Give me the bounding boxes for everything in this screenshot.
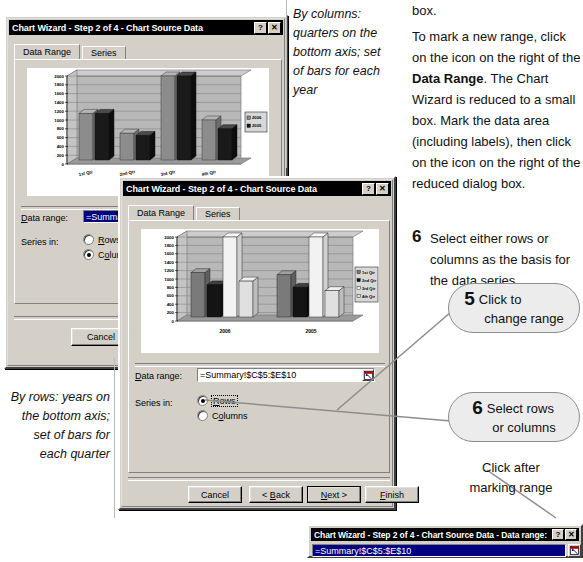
close-button[interactable]: ✕ (268, 22, 281, 34)
radio-columns-front[interactable]: Columns (197, 410, 248, 421)
callout-5-number: 5 (464, 288, 475, 309)
range-select-icon[interactable] (362, 369, 374, 381)
data-range-emphasis: Data Range (412, 71, 484, 86)
series-in-label-front: Series in: (135, 398, 173, 408)
tabpane-front: 0 200 400 600 800 1000 1200 1400 1600 18… (128, 220, 390, 473)
mini-range-input[interactable]: =Summary!$C$5:$E$10 (312, 544, 566, 557)
data-range-label-front: Data range: (135, 371, 182, 381)
svg-text:200: 200 (57, 153, 65, 158)
radio-indicator (83, 249, 94, 260)
svg-text:1800: 1800 (164, 243, 174, 248)
tab-label: Data Range (137, 208, 185, 218)
data-range-input-front[interactable]: =Summary!$C$5:$E$10 (197, 368, 375, 382)
svg-text:2006: 2006 (252, 115, 262, 120)
radio-label: Rows (212, 396, 237, 406)
note-line-1: Click after (482, 460, 540, 475)
close-button[interactable]: ✕ (565, 529, 577, 540)
series-in-label-back: Series in: (21, 237, 59, 247)
chart-preview-by-rows: 0 200 400 600 800 1000 1200 1400 1600 18… (141, 229, 379, 353)
callout-5-line-2: change range (464, 309, 564, 328)
mini-dialog-title: Chart Wizard - Step 2 of 4 - Chart Sourc… (314, 530, 551, 540)
help-button[interactable]: ? (362, 183, 375, 195)
tab-label: Series (205, 209, 231, 219)
callout-6-line-1: Select rows (487, 401, 554, 416)
back-button[interactable]: < Back (249, 486, 303, 503)
chart-by-rows-svg: 0 200 400 600 800 1000 1200 1400 1600 18… (141, 229, 379, 353)
svg-text:3rd Qtr: 3rd Qtr (362, 286, 376, 291)
svg-text:1200: 1200 (164, 268, 174, 273)
caption-by-columns: By columns: quarters on the bottom axis;… (293, 5, 393, 100)
tab-series[interactable]: Series (82, 46, 126, 60)
caption-by-rows: By rows: years on the bottom axis; set o… (8, 388, 110, 464)
data-range-label-back: Data range: (21, 213, 68, 223)
svg-text:0: 0 (62, 162, 65, 167)
next-button-label: Next > (321, 490, 347, 500)
svg-text:1000: 1000 (54, 118, 64, 123)
column-rule-bottom (114, 358, 115, 518)
svg-text:4th Qtr: 4th Qtr (362, 294, 376, 299)
help-button[interactable]: ? (552, 529, 564, 540)
tab-data-range[interactable]: Data Range (14, 44, 80, 60)
titlebar-mini[interactable]: Chart Wizard - Step 2 of 4 - Chart Sourc… (311, 528, 579, 541)
finish-button-label: Finish (380, 490, 404, 500)
paragraph-part-2: . The Chart Wizard is reduced to a small… (412, 71, 580, 191)
column-rule-top (286, 0, 287, 168)
svg-text:0: 0 (172, 319, 175, 324)
svg-text:1400: 1400 (54, 100, 64, 105)
range-select-icon[interactable] (568, 544, 581, 557)
titlebar-back[interactable]: Chart Wizard - Step 2 of 4 - Chart Sourc… (9, 20, 283, 35)
radio-rows-front[interactable]: Rows (197, 395, 237, 406)
collapsed-range-dialog[interactable]: Chart Wizard - Step 2 of 4 - Chart Sourc… (307, 524, 583, 558)
tab-label: Series (91, 48, 117, 58)
radio-rows-back[interactable]: Rows (83, 234, 121, 245)
radio-indicator (197, 395, 208, 406)
titlebar-front[interactable]: Chart Wizard - Step 2 of 4 - Chart Sourc… (123, 181, 391, 196)
click-after-marking-range-note: Click after marking range (438, 458, 583, 498)
note-line-2: marking range (469, 480, 552, 495)
svg-text:2nd Qtr: 2nd Qtr (362, 278, 377, 283)
svg-text:1400: 1400 (164, 260, 174, 265)
chart-wizard-dialog-front[interactable]: Chart Wizard - Step 2 of 4 - Chart Sourc… (118, 176, 396, 510)
callout-5-line-1: Click to (479, 292, 522, 307)
tab-series[interactable]: Series (196, 207, 240, 221)
svg-text:800: 800 (167, 285, 175, 290)
close-button[interactable]: ✕ (376, 183, 389, 195)
next-button[interactable]: Next > (307, 486, 361, 503)
back-button-label: < Back (262, 490, 290, 500)
radio-indicator (197, 410, 208, 421)
radio-label: Columns (212, 411, 248, 421)
svg-text:2000: 2000 (54, 74, 64, 79)
paragraph-box-continuation: box. (412, 0, 578, 21)
step-6-text: Select either rows or columns as the bas… (430, 231, 570, 288)
callout-6-text: 6Select rows or columns (472, 398, 556, 437)
help-button[interactable]: ? (254, 22, 267, 34)
separator (135, 363, 385, 367)
dialog-title: Chart Wizard - Step 2 of 4 - Chart Sourc… (126, 184, 361, 194)
callout-6-number: 6 (472, 397, 483, 418)
svg-text:1st Qtr: 1st Qtr (362, 270, 375, 275)
step-6-number: 6 (412, 226, 421, 247)
svg-text:1200: 1200 (54, 109, 64, 114)
svg-text:2000: 2000 (164, 235, 174, 240)
button-separator-front (128, 477, 390, 481)
svg-text:400: 400 (167, 302, 175, 307)
svg-text:200: 200 (167, 310, 175, 315)
tabstrip-back: Data Range Series (14, 43, 128, 60)
data-range-label-text: ata range: (142, 371, 183, 381)
svg-text:1600: 1600 (54, 91, 64, 96)
tab-data-range[interactable]: Data Range (128, 205, 194, 221)
svg-text:2005: 2005 (305, 328, 316, 334)
data-range-label-text: ata range: (28, 213, 69, 223)
svg-text:1600: 1600 (164, 251, 174, 256)
cancel-button[interactable]: Cancel (188, 486, 242, 503)
svg-text:1000: 1000 (164, 277, 174, 282)
finish-button[interactable]: Finish (365, 486, 419, 503)
range-select-glyph (570, 546, 579, 555)
callout-6-line-2: or columns (472, 418, 556, 437)
callout-5-click-to-change-range: 5Click to change range (448, 283, 580, 333)
svg-text:800: 800 (57, 126, 65, 131)
dialog-title: Chart Wizard - Step 2 of 4 - Chart Sourc… (12, 23, 253, 33)
svg-text:400: 400 (57, 144, 65, 149)
svg-text:600: 600 (167, 293, 175, 298)
svg-text:2006: 2006 (219, 328, 230, 334)
